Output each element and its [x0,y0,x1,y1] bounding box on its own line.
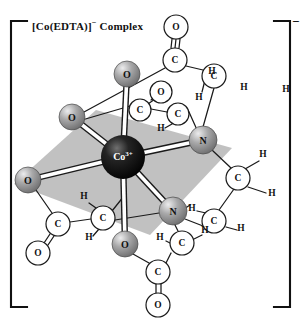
svg-text:O: O [121,239,129,250]
atom-C_left_carboxyl: C [46,212,70,236]
bracket-left [11,21,27,307]
hydrogen-label: H [268,188,276,198]
atom-C_eth_upper: C [226,166,250,190]
title-formula: [Co(EDTA)] [32,20,92,32]
atom-C_rear_methylene: C [167,103,189,125]
svg-text:O: O [172,22,179,32]
figure-canvas: COCOCCCCCOCCOC HHHHHHHHHHHHH OOOONN Co3+… [0,0,302,321]
svg-text:N: N [169,206,177,217]
atom-O_bot_double: O [146,293,170,317]
hydrogen-label: H [237,223,245,233]
atom-Co: Co3+ [101,135,145,179]
atom-O_eq_left: O [15,167,41,193]
hydrogen-label: H [195,92,203,102]
hydrogen-label: H [85,232,93,242]
svg-text:C: C [179,238,186,248]
atom-C_bot_carboxyl: C [146,260,170,284]
svg-text:C: C [235,173,242,183]
atom-C_bot_methylene: C [170,231,194,255]
svg-text:O: O [34,248,41,258]
hydrogen-label: H [208,66,216,76]
svg-text:O: O [157,87,164,97]
metal-center-group: Co3+ [101,135,145,179]
svg-text:C: C [100,213,107,223]
hydrogen-label: H [188,203,196,213]
svg-text:C: C [155,267,162,277]
svg-text:C: C [172,55,179,65]
atom-N_eq_lower: N [159,197,187,225]
hydrogen-label: H [157,123,165,133]
atom-C_top_carboxyl: C [163,48,187,72]
svg-text:C: C [137,105,144,115]
hydrogen-label: H [240,82,248,92]
atom-C_rear_carboxyl: C [129,99,151,121]
atom-C_left_methylene: C [91,206,115,230]
atom-O_ax_top: O [114,61,140,87]
hydrogen-label: H [80,191,88,201]
bracket-right [274,21,290,307]
hydrogen-label: H [201,225,209,235]
svg-text:O: O [68,112,76,123]
atom-O_eq_upleft: O [59,104,85,130]
hydrogen-label: H [156,232,164,242]
atom-O_top_double: O [164,15,188,39]
svg-text:O: O [24,175,32,186]
svg-text:C: C [175,109,182,119]
overall-charge-label: − [292,14,299,30]
atom-O_rear: O [150,81,172,103]
svg-text:O: O [154,300,161,310]
atom-O_left_double: O [26,241,50,265]
svg-text:C: C [211,216,218,226]
svg-text:C: C [55,219,62,229]
hydrogen-label: H [259,149,267,159]
atom-O_ax_bottom: O [112,231,138,257]
figure-title: [Co(EDTA)]− Complex [32,18,143,32]
title-word: Complex [97,20,144,32]
atom-N_eq_right: N [189,126,217,154]
svg-text:N: N [199,135,207,146]
svg-text:O: O [123,69,131,80]
structure-diagram: COCOCCCCCOCCOC HHHHHHHHHHHHH OOOONN Co3+ [0,0,302,321]
